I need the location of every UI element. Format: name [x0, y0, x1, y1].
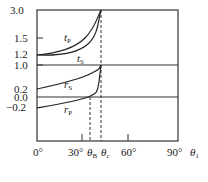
x-tick-90: 90° [167, 147, 182, 158]
x-tick-30: 30° [68, 147, 83, 158]
x-tick-60: 60° [121, 147, 136, 158]
label-rs: rS [64, 79, 72, 92]
x-marker-theta-b: θB [87, 147, 97, 160]
y-tick-m0-2: −0.2 [6, 102, 26, 113]
x-tick-0: 0° [33, 147, 43, 158]
y-tick-1-0: 1.0 [14, 60, 28, 71]
label-tp: tP [64, 32, 71, 45]
label-rp: rP [64, 104, 72, 117]
x-axis-label: θ1 [190, 147, 199, 160]
y-tick-3-0: 3.0 [10, 5, 24, 16]
x-marker-theta-c: θc [101, 147, 110, 160]
label-ts: tS [77, 53, 84, 66]
plot-frame [37, 10, 178, 141]
y-tick-1-5: 1.5 [14, 33, 28, 44]
